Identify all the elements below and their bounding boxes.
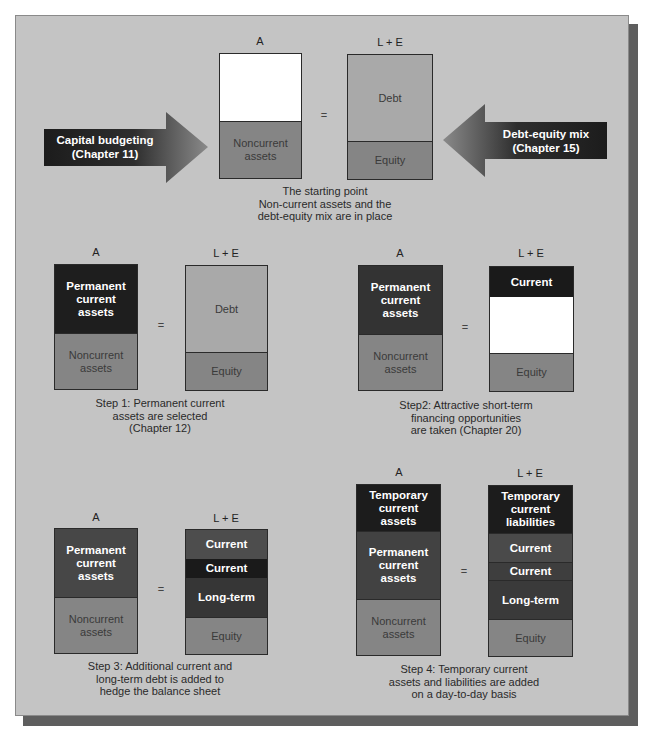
start-assets-empty	[220, 54, 301, 121]
capital-budgeting-label: Capital budgeting (Chapter 11)	[44, 133, 166, 161]
step4-temporary-current-assets: Temporary current assets	[357, 485, 440, 531]
step2-equals: =	[458, 321, 472, 333]
step3-noncurrent-assets: Noncurrent assets	[55, 597, 137, 653]
step3-permanent-current-assets: Permanent current assets	[55, 529, 137, 597]
step1-assets-header: A	[66, 246, 126, 258]
step3-current-1: Current	[186, 530, 267, 559]
debt-equity-mix-label: Debt-equity mix (Chapter 15)	[485, 127, 607, 155]
step2-liab-box: Current Equity	[489, 266, 574, 392]
step1-permanent-current-assets: Permanent current assets	[55, 265, 137, 333]
step1-debt: Debt	[186, 266, 267, 352]
liab-equity-header: L + E	[360, 36, 420, 48]
step4-equity: Equity	[489, 619, 572, 656]
step2-noncurrent-assets: Noncurrent assets	[359, 334, 442, 390]
step4-current-1: Current	[489, 533, 572, 562]
step2-equity: Equity	[490, 353, 573, 391]
step3-liab-header: L + E	[196, 512, 256, 524]
start-caption: The starting point Non-current assets an…	[225, 185, 425, 223]
step3-current-2: Current	[186, 559, 267, 578]
step4-equals: =	[457, 565, 471, 577]
step4-current-2: Current	[489, 562, 572, 580]
step1-caption: Step 1: Permanent current assets are sel…	[60, 397, 260, 435]
step3-assets-box: Permanent current assets Noncurrent asse…	[54, 528, 138, 654]
step4-liab-header: L + E	[500, 467, 560, 479]
start-assets-box: Noncurrent assets	[219, 53, 302, 179]
step2-caption: Step2: Attractive short-term financing o…	[366, 399, 566, 437]
step2-permanent-current-assets: Permanent current assets	[359, 266, 442, 334]
step2-current: Current	[490, 267, 573, 297]
step3-liab-box: Current Current Long-term Equity	[185, 529, 268, 655]
step4-liab-box: Temporary current liabilities Current Cu…	[488, 485, 573, 657]
step3-equals: =	[154, 583, 168, 595]
step1-noncurrent-assets: Noncurrent assets	[55, 333, 137, 389]
step2-liab-header: L + E	[501, 247, 561, 259]
step2-assets-header: A	[370, 247, 430, 259]
start-debt: Debt	[348, 55, 432, 141]
assets-header: A	[230, 35, 290, 47]
step1-liab-box: Debt Equity	[185, 265, 268, 391]
step2-empty	[490, 297, 573, 353]
step1-liab-header: L + E	[196, 247, 256, 259]
step3-equity: Equity	[186, 617, 267, 654]
step2-assets-box: Permanent current assets Noncurrent asse…	[358, 265, 443, 391]
step1-equity: Equity	[186, 352, 267, 390]
step4-assets-box: Temporary current assets Permanent curre…	[356, 484, 441, 656]
start-equals: =	[317, 109, 331, 121]
start-equity: Equity	[348, 141, 432, 179]
step4-caption: Step 4: Temporary current assets and lia…	[364, 663, 564, 701]
step1-equals: =	[154, 319, 168, 331]
step4-long-term: Long-term	[489, 580, 572, 619]
step3-caption: Step 3: Additional current and long-term…	[60, 660, 260, 698]
start-liab-box: Debt Equity	[347, 54, 433, 180]
step4-temporary-current-liabilities: Temporary current liabilities	[489, 486, 572, 533]
step1-assets-box: Permanent current assets Noncurrent asse…	[54, 264, 138, 390]
step4-assets-header: A	[369, 466, 429, 478]
start-noncurrent-assets: Noncurrent assets	[220, 121, 301, 178]
step4-permanent-current-assets: Permanent current assets	[357, 531, 440, 599]
step3-assets-header: A	[66, 511, 126, 523]
step4-noncurrent-assets: Noncurrent assets	[357, 599, 440, 655]
step3-long-term: Long-term	[186, 578, 267, 617]
